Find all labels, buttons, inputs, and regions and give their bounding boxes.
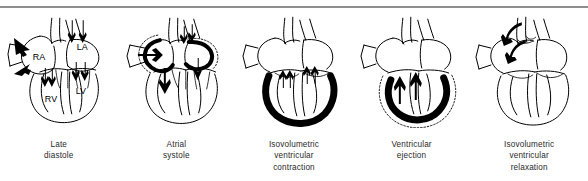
panel-caption-isovolumetric-relaxation: Isovolumetric ventricular relaxation <box>470 139 588 173</box>
heart-diagram-isovolumetric-contraction <box>235 10 353 128</box>
caption-line: systole <box>118 150 236 161</box>
caption-line: Atrial <box>118 139 236 150</box>
panel-late-diastole: RA LA RV LV Late diastole <box>0 10 118 181</box>
caption-line: ventricular <box>470 150 588 161</box>
heart-diagram-atrial-systole <box>118 10 236 128</box>
caption-line: Isovolumetric <box>235 139 353 150</box>
caption-line: relaxation <box>470 162 588 173</box>
caption-line: Ventricular <box>353 139 471 150</box>
panel-caption-late-diastole: Late diastole <box>0 139 118 162</box>
heart-diagram-isovolumetric-relaxation <box>470 10 588 128</box>
caption-line: Late <box>0 139 118 150</box>
chamber-label-ra: RA <box>33 52 45 62</box>
panel-isovolumetric-ventricular-relaxation: Isovolumetric ventricular relaxation <box>470 10 588 181</box>
caption-line: contraction <box>235 162 353 173</box>
panel-ventricular-ejection: Ventricular ejection <box>353 10 471 181</box>
panel-caption-atrial-systole: Atrial systole <box>118 139 236 162</box>
cardiac-cycle-figure: RA LA RV LV Late diastole <box>0 0 588 181</box>
caption-line: ventricular <box>235 150 353 161</box>
caption-line: Isovolumetric <box>470 139 588 150</box>
heart-diagram-ventricular-ejection <box>353 10 471 128</box>
panel-atrial-systole: Atrial systole <box>118 10 236 181</box>
top-rule-divider <box>0 6 588 8</box>
caption-line: diastole <box>0 150 118 161</box>
caption-line: ejection <box>353 150 471 161</box>
panel-row: RA LA RV LV Late diastole <box>0 10 588 181</box>
chamber-label-lv: LV <box>76 86 86 96</box>
panel-isovolumetric-ventricular-contraction: Isovolumetric ventricular contraction <box>235 10 353 181</box>
chamber-label-la: LA <box>77 42 88 52</box>
chamber-label-rv: RV <box>45 94 57 104</box>
heart-diagram-late-diastole: RA LA RV LV <box>0 10 118 128</box>
panel-caption-ventricular-ejection: Ventricular ejection <box>353 139 471 162</box>
panel-caption-isovolumetric-contraction: Isovolumetric ventricular contraction <box>235 139 353 173</box>
